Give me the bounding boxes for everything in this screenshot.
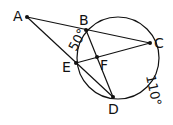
point-e [74,61,78,65]
point-f [95,55,99,59]
point-a [25,15,29,19]
arc-label-cd: 110° [143,74,164,108]
label-c: C [154,35,164,51]
label-e: E [62,59,71,75]
geometry-diagram: A B C E F D 50° 110° [0,0,173,125]
diagram-canvas: A B C E F D 50° 110° [0,0,173,125]
point-c [148,41,152,45]
label-f: F [100,57,108,73]
label-a: A [13,8,23,24]
label-b: B [79,12,89,28]
segment-ec [76,43,150,63]
label-d: D [108,101,119,117]
point-d [111,95,115,99]
